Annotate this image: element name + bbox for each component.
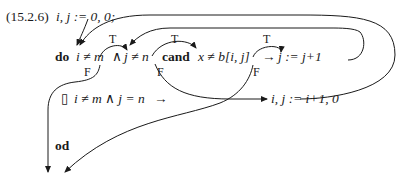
- keyword-do: do: [55, 50, 69, 64]
- guard-j-neq-n: j ≠ n: [124, 50, 149, 64]
- keyword-cand: cand: [162, 50, 190, 64]
- label-T-1: T: [109, 33, 116, 45]
- guard-arrow-1: →: [262, 50, 276, 64]
- action-j-increment: j := j+1: [278, 50, 322, 64]
- keyword-od: od: [55, 139, 69, 153]
- label-T-3: T: [263, 33, 270, 45]
- guard-arrow-2: →: [154, 92, 168, 106]
- label-F-1: F: [84, 66, 91, 78]
- arrow-F-guard1-to-od: [48, 65, 100, 172]
- guard-row-end: i ≠ m ∧ j = n: [74, 92, 145, 106]
- label-F-3: F: [253, 66, 260, 78]
- equation-number: (15.2.6): [6, 10, 49, 24]
- arrow-F-guard2-to-action2: [155, 64, 267, 99]
- guard-i-neq-m: i ≠ m: [76, 50, 104, 64]
- guard-x-neq-b: x ≠ b[i, j]: [198, 50, 250, 64]
- label-T-2: T: [171, 33, 178, 45]
- arrow-F-guard3-to-od: [65, 65, 253, 172]
- label-F-2: F: [157, 66, 164, 78]
- action-i-increment: i, j := i+1, 0: [271, 92, 339, 106]
- guard-separator-box: ▯: [61, 92, 68, 106]
- init-statement: i, j := 0, 0;: [56, 10, 115, 24]
- and-operator: ∧: [112, 50, 122, 64]
